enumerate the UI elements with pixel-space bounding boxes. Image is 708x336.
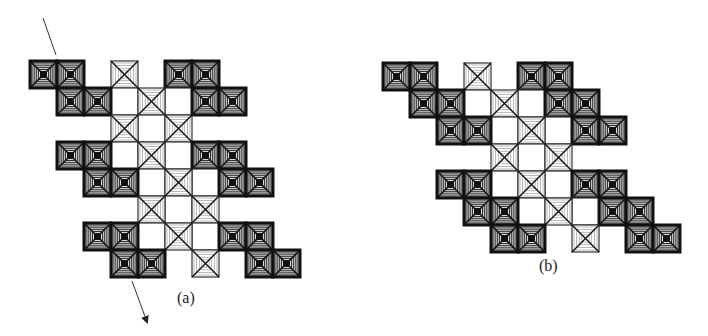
plain-cell [491, 171, 518, 198]
dark-cell [437, 90, 464, 117]
dark-cell [437, 117, 464, 144]
dark-cell [599, 198, 626, 225]
dark-cell [572, 171, 599, 198]
dark-cell [111, 250, 138, 277]
diagram-canvas [0, 0, 708, 336]
dark-cell [491, 198, 518, 225]
plain-cell [491, 117, 518, 144]
dark-cell [599, 171, 626, 198]
dark-cell [464, 171, 491, 198]
direction-arrow [132, 281, 147, 322]
figure-b-grid [383, 63, 680, 252]
plain-cell [138, 169, 165, 196]
plain-cell [192, 223, 219, 250]
dark-cell [219, 88, 246, 115]
dark-cell [219, 142, 246, 169]
dark-cell [572, 117, 599, 144]
cross-cell [545, 198, 572, 225]
dark-cell [626, 225, 653, 252]
cross-cell [192, 250, 219, 277]
plain-cell [518, 144, 545, 171]
dark-cell [464, 117, 491, 144]
dark-cell [572, 90, 599, 117]
dark-cell [84, 169, 111, 196]
dark-cell [84, 223, 111, 250]
plain-cell [545, 117, 572, 144]
dark-cell [626, 198, 653, 225]
dark-cell [111, 223, 138, 250]
dark-cell [599, 117, 626, 144]
figure-a-grid [30, 61, 300, 277]
dark-cell [165, 61, 192, 88]
figure-a-label: (a) [177, 289, 195, 307]
cross-cell [491, 144, 518, 171]
dark-cell [30, 61, 57, 88]
plain-cell [518, 90, 545, 117]
dark-cell [518, 63, 545, 90]
dark-cell [464, 198, 491, 225]
dark-cell [545, 63, 572, 90]
plain-cell [165, 88, 192, 115]
direction-line [43, 18, 56, 55]
dark-cell [491, 225, 518, 252]
dark-cell [192, 61, 219, 88]
dark-cell [545, 90, 572, 117]
cross-cell [192, 196, 219, 223]
cross-cell [165, 115, 192, 142]
dark-cell [246, 250, 273, 277]
dark-cell [138, 250, 165, 277]
cross-cell [518, 171, 545, 198]
figure-b-label: (b) [539, 257, 558, 275]
dark-cell [84, 142, 111, 169]
plain-cell [165, 196, 192, 223]
plain-cell [545, 171, 572, 198]
plain-cell [572, 198, 599, 225]
cross-cell [138, 196, 165, 223]
plain-cell [111, 142, 138, 169]
plain-cell [111, 88, 138, 115]
plain-cell [138, 115, 165, 142]
cross-cell [138, 88, 165, 115]
plain-cell [138, 223, 165, 250]
dark-cell [111, 169, 138, 196]
dark-cell [57, 142, 84, 169]
cross-cell [545, 144, 572, 171]
dark-cell [57, 88, 84, 115]
dark-cell [437, 171, 464, 198]
cross-cell [165, 169, 192, 196]
dark-cell [57, 61, 84, 88]
dark-cell [192, 88, 219, 115]
plain-cell [165, 142, 192, 169]
dark-cell [383, 63, 410, 90]
cross-cell [464, 63, 491, 90]
cross-cell [572, 225, 599, 252]
cross-cell [111, 115, 138, 142]
dark-cell [219, 169, 246, 196]
cross-cell [165, 223, 192, 250]
dark-cell [273, 250, 300, 277]
cross-cell [111, 61, 138, 88]
dark-cell [246, 169, 273, 196]
plain-cell [464, 90, 491, 117]
dark-cell [246, 223, 273, 250]
dark-cell [410, 63, 437, 90]
plain-cell [518, 198, 545, 225]
cross-cell [518, 117, 545, 144]
dark-cell [518, 225, 545, 252]
cross-cell [491, 90, 518, 117]
dark-cell [84, 88, 111, 115]
cross-cell [138, 142, 165, 169]
dark-cell [653, 225, 680, 252]
dark-cell [192, 142, 219, 169]
dark-cell [219, 223, 246, 250]
plain-cell [192, 169, 219, 196]
dark-cell [410, 90, 437, 117]
